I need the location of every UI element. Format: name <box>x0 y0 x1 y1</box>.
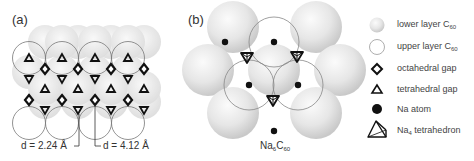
panel-b-lower-layer <box>182 1 366 139</box>
legend-text: tetrahedral gap <box>397 84 458 94</box>
legend-suffix: tetrahedron <box>412 125 461 135</box>
formula-na6c60: Na6C60 <box>260 140 290 152</box>
legend-item-na-atom: Na atom <box>397 104 431 114</box>
formula-na: Na <box>260 140 273 151</box>
panel-a-label: (a) <box>12 12 28 27</box>
legend-text: Na <box>397 125 409 135</box>
legend-item-upper-layer: upper layer C60 <box>397 41 458 52</box>
panel-b-label: (b) <box>188 12 204 27</box>
triangle-icon <box>372 85 382 93</box>
legend-item-octahedral: octahedral gap <box>397 63 457 73</box>
lower-layer-sphere-icon <box>370 18 385 33</box>
formula-sub-60: 60 <box>283 146 290 152</box>
upper-layer-circle-icon <box>370 40 385 55</box>
legend-text: lower layer C <box>397 19 450 29</box>
legend-icons <box>368 18 386 138</box>
diamond-icon <box>372 64 382 74</box>
filled-circle-icon <box>372 104 382 114</box>
distance-label-large: d = 4.12 Å <box>102 140 150 151</box>
legend-item-tetrahedral: tetrahedral gap <box>397 84 458 94</box>
tetrahedron-icon <box>368 121 386 137</box>
distance-label-small: d = 2.24 Å <box>20 140 68 151</box>
legend-text: upper layer C <box>397 41 451 51</box>
legend-text: octahedral gap <box>397 63 457 73</box>
legend-item-lower-layer: lower layer C60 <box>397 19 456 30</box>
legend-item-na4-tetrahedron: Na4 tetrahedron <box>397 125 460 136</box>
legend-sub: 60 <box>450 24 457 30</box>
legend-text: Na atom <box>397 104 431 114</box>
legend-sub: 60 <box>451 46 458 52</box>
